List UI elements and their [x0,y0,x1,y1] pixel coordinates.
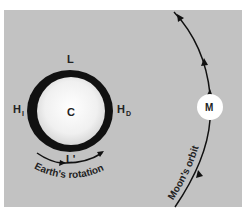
arrowhead-icon [177,14,184,22]
label-h-d: H D [117,103,131,117]
svg-text:I: I [22,110,24,117]
label-h-i: H I [13,103,24,117]
moon: M [197,94,223,120]
svg-text:H: H [117,103,125,115]
label-c: C [67,106,75,118]
label-m: M [205,102,213,113]
arrowhead-icon [196,170,203,178]
tide-diagram: C L H I H D L' Earth's rotation M Moon's… [0,0,247,211]
arrowhead-icon [59,160,66,166]
svg-text:H: H [13,103,21,115]
svg-text:D: D [126,110,131,117]
label-l: L [67,53,74,65]
